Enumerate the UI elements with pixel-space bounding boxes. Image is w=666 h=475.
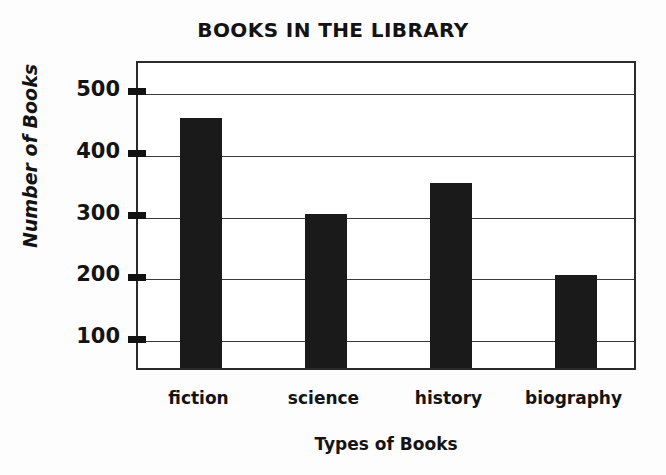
y-tick-label-200: 200 [50,262,120,286]
y-tick-200 [128,274,146,281]
plot-area [136,61,636,370]
bar-fiction [180,118,222,368]
y-tick-100 [128,336,146,343]
y-tick-label-300: 300 [50,201,120,225]
bar-science [305,214,347,369]
y-tick-label-500: 500 [50,77,120,101]
y-axis-title: Number of Books [19,46,41,266]
bar-history [430,183,472,368]
chart-page: BOOKS IN THE LIBRARY Number of Books 100… [0,0,666,475]
x-category-label-biography: biography [511,388,636,408]
bar-biography [555,275,597,368]
x-category-label-history: history [386,388,511,408]
gridline-500 [138,94,634,95]
x-category-label-science: science [261,388,386,408]
y-tick-300 [128,212,146,219]
y-tick-500 [128,88,146,95]
y-tick-400 [128,150,146,157]
x-axis-title: Types of Books [136,434,636,454]
chart-title: BOOKS IN THE LIBRARY [0,18,666,42]
y-tick-label-400: 400 [50,139,120,163]
y-tick-label-100: 100 [50,324,120,348]
x-category-label-fiction: fiction [136,388,261,408]
